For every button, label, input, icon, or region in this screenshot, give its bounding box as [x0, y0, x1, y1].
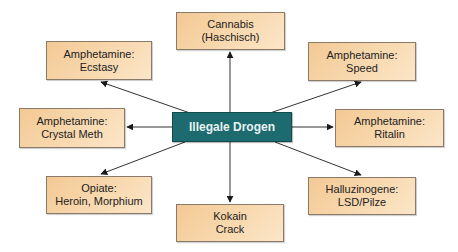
node-cannabis-line1: Cannabis [207, 18, 253, 31]
center-node-illegale-drogen: Illegale Drogen [172, 112, 292, 142]
node-speed-line1: Amphetamine: [327, 49, 398, 62]
node-speed-line2: Speed [346, 62, 378, 75]
node-ecstasy: Amphetamine: Ecstasy [46, 41, 152, 80]
node-halluzinogene-line1: Halluzinogene: [326, 183, 399, 196]
node-kokain-line1: Kokain [213, 210, 247, 223]
node-halluzinogene: Halluzinogene: LSD/Pilze [308, 177, 416, 215]
node-opiate-line2: Heroin, Morphium [55, 195, 142, 208]
node-ecstasy-line2: Ecstasy [80, 61, 119, 74]
node-cannabis: Cannabis (Haschisch) [176, 12, 285, 50]
drug-categories-diagram: Illegale Drogen Cannabis (Haschisch) Amp… [0, 0, 458, 252]
node-opiate-line1: Opiate: [81, 182, 116, 195]
node-kokain-line2: Crack [216, 223, 245, 236]
node-opiate: Opiate: Heroin, Morphium [46, 176, 152, 214]
node-ecstasy-line1: Amphetamine: [64, 48, 135, 61]
node-ritalin-line1: Amphetamine: [354, 115, 425, 128]
node-crystal-meth-line1: Amphetamine: [37, 115, 108, 128]
node-speed: Amphetamine: Speed [308, 42, 416, 81]
node-kokain: Kokain Crack [176, 204, 284, 242]
node-crystal-meth: Amphetamine: Crystal Meth [19, 108, 125, 148]
node-crystal-meth-line2: Crystal Meth [41, 128, 103, 141]
node-cannabis-line2: (Haschisch) [201, 31, 259, 44]
center-node-label: Illegale Drogen [189, 120, 275, 134]
node-ritalin: Amphetamine: Ritalin [335, 109, 444, 147]
node-ritalin-line2: Ritalin [374, 128, 405, 141]
node-halluzinogene-line2: LSD/Pilze [338, 196, 386, 209]
